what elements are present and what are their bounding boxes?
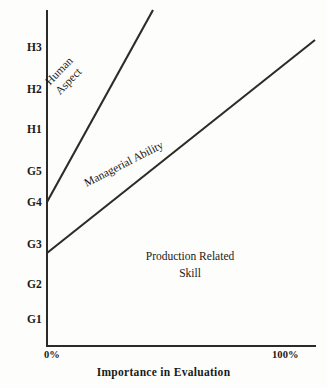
managerial-ability-boundary-line	[47, 40, 315, 253]
chart-figure: H3H2H1G5G4G3G2G1 Human Aspect Managerial…	[0, 0, 327, 388]
region-boundary-lines	[0, 0, 327, 388]
region-label-production-line2: Skill	[128, 265, 252, 282]
x-axis-tick-label-min: 0%	[44, 349, 60, 360]
region-label-production-line1: Production Related	[128, 248, 252, 265]
x-axis-title: Importance in Evaluation	[0, 366, 327, 378]
region-label-production-related-skill: Production Related Skill	[128, 248, 252, 281]
x-axis-tick-label-max: 100%	[272, 349, 299, 360]
